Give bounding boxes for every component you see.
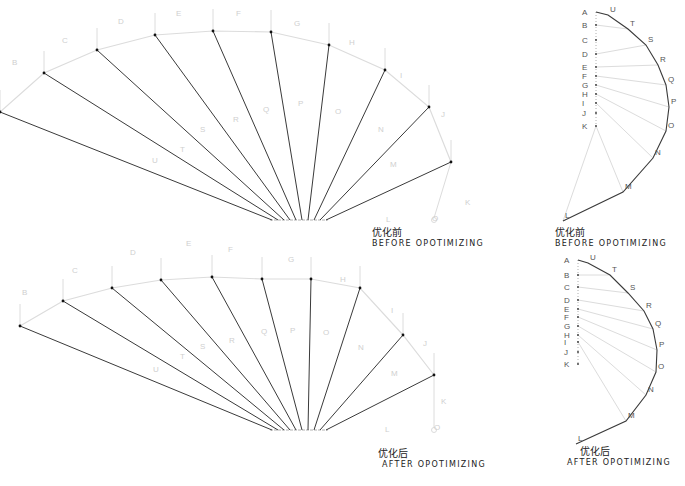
caption-before-arc: 优化前 BEFORE OPOTIMIZING: [555, 228, 667, 248]
spine-dot-icon: [577, 316, 579, 318]
node-dot-icon: [310, 278, 313, 281]
spoke-line: [563, 126, 596, 221]
inner-label-P: P: [298, 99, 303, 108]
spine-label-F: F: [582, 72, 587, 81]
arc-label-M: M: [625, 182, 632, 191]
spoke-line: [596, 103, 653, 158]
caption-after-en: AFTER OPOTIMIZING: [382, 461, 486, 469]
node-label-J: J: [423, 339, 427, 348]
fan-diagram-after: BCDEFGHIJUTSRQPONMLKO: [19, 239, 447, 434]
spoke-line: [271, 32, 302, 220]
spine-label-I: I: [582, 99, 584, 108]
node-label-D: D: [118, 17, 124, 26]
node-label-G: G: [288, 255, 294, 264]
node-label-B: B: [22, 288, 27, 297]
spine-dot-icon: [595, 53, 597, 55]
inner-label-T: T: [180, 145, 185, 154]
arc-label-P: P: [671, 97, 676, 106]
spoke-line: [262, 279, 302, 430]
node-dot-icon: [402, 334, 405, 337]
spine-dot-icon: [577, 363, 579, 365]
inner-label-S: S: [200, 125, 205, 134]
spoke-line: [97, 50, 284, 220]
spine-label-B: B: [582, 21, 587, 30]
spine-dot-icon: [577, 274, 579, 276]
inner-label-L: L: [385, 425, 390, 434]
spine-label-A: A: [564, 256, 570, 265]
node-dot-icon: [96, 49, 99, 52]
spoke-line: [326, 162, 451, 220]
spine-dot-icon: [595, 93, 597, 95]
arc-label-N: N: [648, 385, 654, 394]
spoke-line: [578, 342, 626, 421]
node-label-D: D: [130, 248, 136, 257]
spine-label-C: C: [564, 283, 570, 292]
spine-dot-icon: [577, 286, 579, 288]
arc-label-Q: Q: [668, 75, 674, 84]
spine-dot-icon: [595, 112, 597, 114]
node-dot-icon: [160, 279, 163, 282]
arc-label-Q: Q: [655, 319, 661, 328]
inner-label-M: M: [390, 160, 397, 169]
node-dot-icon: [261, 278, 264, 281]
node-dot-icon: [359, 287, 362, 290]
inner-label-S: S: [200, 342, 205, 351]
node-dot-icon: [111, 287, 114, 290]
spine-label-A: A: [582, 8, 588, 17]
spine-dot-icon: [577, 334, 579, 336]
node-label-F: F: [236, 9, 241, 18]
spine-label-F: F: [564, 313, 569, 322]
spoke-line: [596, 126, 623, 192]
node-dot-icon: [428, 106, 431, 109]
inner-label-M: M: [391, 369, 398, 378]
arc-label-T: T: [630, 19, 635, 28]
inner-label-R: R: [233, 115, 239, 124]
inner-label-R: R: [229, 336, 235, 345]
spoke-line: [63, 301, 278, 430]
node-dot-icon: [211, 276, 214, 279]
spoke-line: [213, 31, 296, 220]
arc-label-R: R: [646, 301, 652, 310]
arc-diagram-before: ABCDEFGHIJKUTSRQPONML: [563, 5, 676, 221]
node-label-H: H: [349, 38, 355, 47]
caption-before-arc-en: BEFORE OPOTIMIZING: [555, 240, 667, 248]
spine-dot-icon: [595, 84, 597, 86]
fan-diagram-before: BCDEFGHIJUTSRQPONMLKO: [0, 9, 471, 224]
caption-before-en: BEFORE OPOTIMIZING: [372, 240, 484, 248]
spine-dot-icon: [577, 299, 579, 301]
arc-label-S: S: [630, 283, 635, 292]
inner-label-T: T: [180, 352, 185, 361]
inner-label-Q: Q: [261, 327, 267, 336]
inner-label-O: O: [434, 423, 440, 432]
node-label-E: E: [186, 239, 191, 248]
spoke-line: [578, 300, 644, 311]
caption-after-arc: 优化后 AFTER OPOTIMIZING: [567, 447, 671, 467]
arc-label-L: L: [565, 211, 570, 220]
outer-arc-line: [0, 31, 451, 162]
spine-label-J: J: [582, 109, 586, 118]
spine-label-E: E: [582, 63, 587, 72]
spine-label-G: G: [564, 322, 570, 331]
inner-label-U: U: [153, 365, 159, 374]
spine-label-C: C: [582, 36, 588, 45]
arc-polyline: [576, 260, 657, 444]
spine-dot-icon: [595, 102, 597, 104]
node-dot-icon: [19, 325, 22, 328]
spine-dot-icon: [595, 75, 597, 77]
spine-dot-icon: [577, 351, 579, 353]
caption-before-fan: 优化前 BEFORE OPOTIMIZING: [372, 228, 484, 248]
spine-dot-icon: [577, 308, 579, 310]
spoke-line: [578, 335, 646, 395]
caption-after-zh: 优化后: [378, 449, 486, 459]
node-dot-icon: [328, 44, 331, 47]
arc-diagram-after: ABCDEFGHIJKUTSRQPONML: [564, 253, 664, 444]
spoke-line: [44, 73, 278, 220]
spoke-line: [112, 288, 284, 430]
arc-label-P: P: [659, 340, 664, 349]
spine-dot-icon: [595, 24, 597, 26]
node-label-B: B: [12, 58, 17, 67]
node-dot-icon: [43, 72, 46, 75]
node-label-F: F: [228, 245, 233, 254]
node-dot-icon: [270, 31, 273, 34]
spine-label-D: D: [582, 50, 588, 59]
